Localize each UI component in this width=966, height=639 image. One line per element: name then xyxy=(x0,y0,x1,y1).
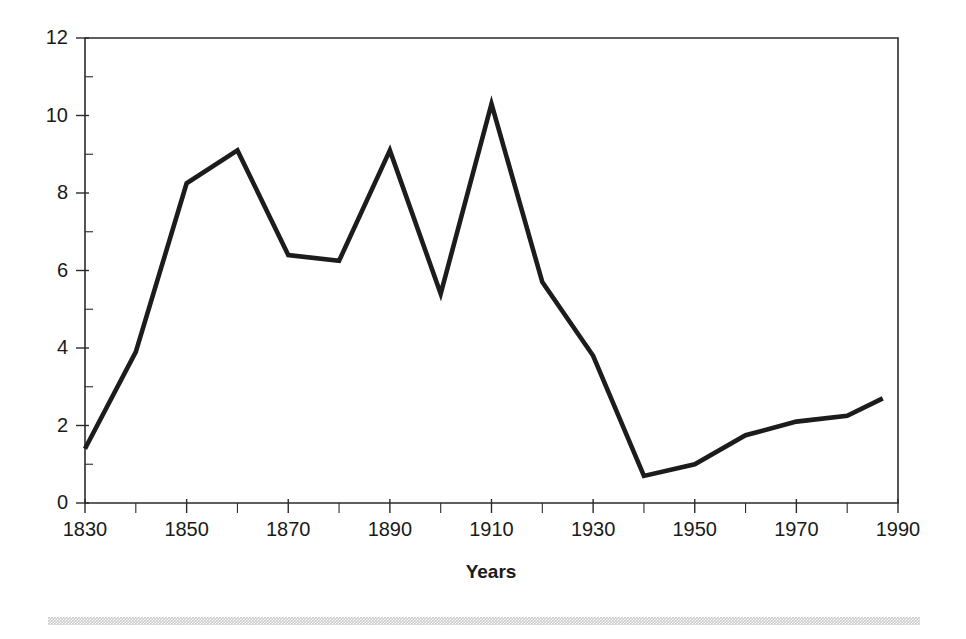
x-tick-label: 1970 xyxy=(774,518,819,540)
line-chart: 024681012 183018501870189019101930195019… xyxy=(0,0,966,639)
y-tick-label: 10 xyxy=(46,104,68,126)
y-tick-label: 0 xyxy=(57,491,68,513)
x-tick-label: 1890 xyxy=(368,518,413,540)
y-tick-label: 4 xyxy=(57,336,68,358)
y-tick-label: 6 xyxy=(57,259,68,281)
y-tick-label: 8 xyxy=(57,181,68,203)
footer-rule xyxy=(48,617,920,625)
chart-figure: 024681012 183018501870189019101930195019… xyxy=(0,0,966,639)
x-tick-label: 1930 xyxy=(571,518,616,540)
x-tick-label: 1870 xyxy=(266,518,311,540)
x-tick-label: 1990 xyxy=(876,518,921,540)
x-tick-label: 1830 xyxy=(63,518,108,540)
x-axis-title: Years xyxy=(466,561,517,582)
x-tick-label: 1910 xyxy=(469,518,514,540)
x-tick-label: 1950 xyxy=(673,518,718,540)
x-axis-tick-labels: 183018501870189019101930195019701990 xyxy=(63,518,921,540)
y-tick-label: 12 xyxy=(46,26,68,48)
y-tick-label: 2 xyxy=(57,414,68,436)
x-tick-label: 1850 xyxy=(164,518,209,540)
